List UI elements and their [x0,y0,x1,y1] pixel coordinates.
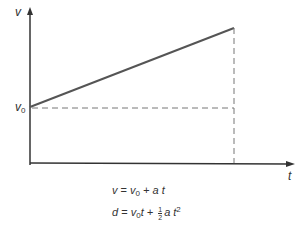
x-axis-arrow-icon [286,161,295,167]
y-axis-arrow-icon [27,7,33,15]
velocity-time-diagram: v t v0 v = v0 + a t d = v0t + 12a t2 [0,0,306,233]
fraction-half: 12 [158,206,162,221]
x-axis-label: t [288,170,291,182]
v0-label: v0 [15,101,25,115]
x-axis [30,163,288,164]
graph [0,0,306,233]
velocity-line [30,28,234,107]
equation-distance: d = v0t + 12a t2 [112,205,181,221]
y-axis-label: v [15,6,21,18]
equation-velocity: v = v0 + a t [112,184,165,198]
